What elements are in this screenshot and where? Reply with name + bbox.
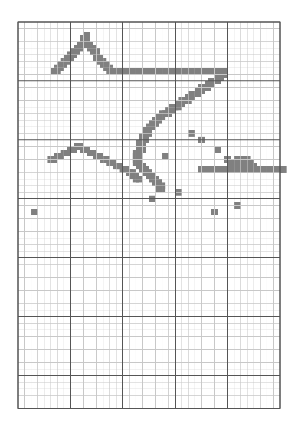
pattern-chart-root (0, 0, 299, 431)
pattern-grid-canvas (0, 0, 299, 431)
